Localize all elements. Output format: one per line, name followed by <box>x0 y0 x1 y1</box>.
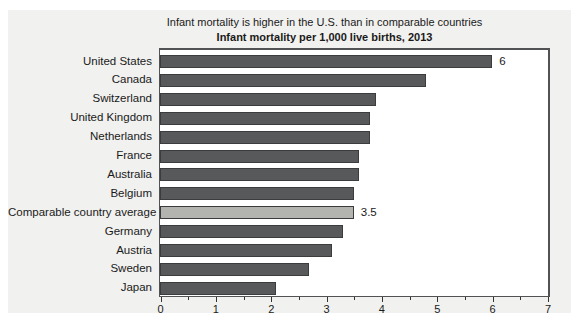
x-tick-label: 5 <box>434 303 440 315</box>
x-axis: 01234567 <box>8 10 571 313</box>
x-major-tick <box>548 297 549 302</box>
chart-panel: Infant mortality is higher in the U.S. t… <box>8 10 571 313</box>
x-tick-label: 2 <box>268 303 274 315</box>
x-major-tick <box>327 297 328 302</box>
x-minor-tick <box>520 297 521 300</box>
x-tick-label: 6 <box>490 303 496 315</box>
x-minor-tick <box>465 297 466 300</box>
x-tick-label: 1 <box>213 303 219 315</box>
x-major-tick <box>161 297 162 302</box>
x-tick-label: 0 <box>157 303 163 315</box>
x-major-tick <box>216 297 217 302</box>
x-minor-tick <box>188 297 189 300</box>
x-tick-label: 7 <box>545 303 551 315</box>
chart-figure: Infant mortality is higher in the U.S. t… <box>0 0 579 321</box>
x-major-tick <box>271 297 272 302</box>
x-major-tick <box>437 297 438 302</box>
x-major-tick <box>493 297 494 302</box>
x-tick-label: 4 <box>379 303 385 315</box>
x-tick-label: 3 <box>324 303 330 315</box>
x-major-tick <box>382 297 383 302</box>
x-minor-tick <box>244 297 245 300</box>
x-minor-tick <box>410 297 411 300</box>
x-minor-tick <box>299 297 300 300</box>
x-minor-tick <box>354 297 355 300</box>
